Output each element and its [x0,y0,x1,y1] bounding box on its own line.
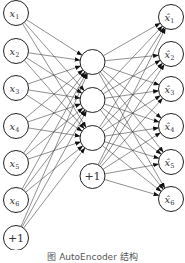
bias-node-4: +1 [80,164,105,189]
edge [98,28,165,165]
edge [27,20,82,56]
edge [24,148,85,228]
node-circle [80,88,105,113]
edge [28,128,80,136]
bias-node-7: +1 [4,226,29,251]
edge [99,73,165,188]
edge [103,96,160,132]
edge [24,72,85,153]
hidden-node-2 [80,88,105,113]
edge [99,65,164,166]
edge [28,66,81,84]
edge [105,164,159,174]
input-node-1: x1 [4,1,29,26]
network-nodes: x1x2x3x4x5x6+1+1x̂1x̂2x̂3x̂4x̂5x̂6 [4,1,184,251]
edge [105,91,159,99]
output-node-1: x̂1 [159,5,184,30]
node-label: +1 [84,170,100,183]
output-node-2: x̂2 [159,42,184,67]
node-circle [80,50,105,75]
edge [102,146,161,192]
edge [27,58,82,94]
edge [28,104,81,122]
output-node-3: x̂3 [159,77,184,102]
node-label: +1 [8,232,24,245]
input-node-2: x2 [4,39,29,64]
edge [104,142,159,159]
input-node-6: x6 [4,188,29,213]
output-node-5: x̂5 [159,150,184,175]
edge [104,180,159,196]
node-circle [80,126,105,151]
output-node-6: x̂6 [159,187,184,212]
autoencoder-diagram: x1x2x3x4x5x6+1+1x̂1x̂2x̂3x̂4x̂5x̂6 [0,0,185,250]
edge [103,133,160,170]
input-node-4: x4 [4,114,29,139]
figure-caption: 图 AutoEncoder 结构 [0,250,185,263]
output-node-4: x̂4 [159,114,184,139]
hidden-node-3 [80,126,105,151]
edge [103,23,160,56]
edge [24,60,84,128]
hidden-node-1 [80,50,105,75]
edge [28,53,80,60]
edge [26,70,83,118]
input-node-5: x5 [4,151,29,176]
input-node-3: x3 [4,76,29,101]
